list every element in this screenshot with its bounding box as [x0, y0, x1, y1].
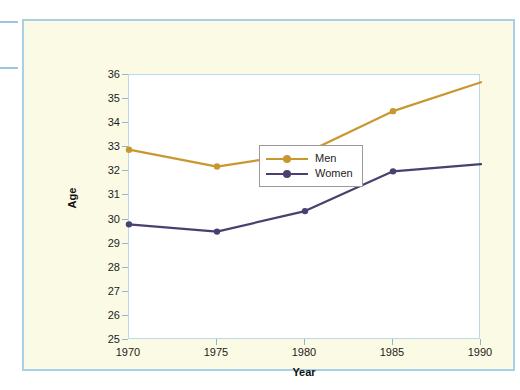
x-axis-tick-label: 1985 [372, 347, 412, 358]
legend-swatch-women [266, 168, 308, 180]
legend-entry-women: Women [266, 166, 353, 181]
x-axis-tick-label: 1980 [284, 347, 324, 358]
data-point-women-1985 [390, 168, 396, 174]
x-axis-tick-label: 1970 [108, 347, 148, 358]
x-axis-tick-mark [392, 339, 393, 345]
y-axis-tick-label: 30 [94, 213, 120, 224]
data-point-women-1975 [214, 228, 220, 234]
data-point-men-1985 [390, 108, 396, 114]
legend-label-men: Men [315, 153, 336, 164]
y-axis-tick-label: 28 [94, 261, 120, 272]
legend-marker-men [283, 155, 291, 163]
x-axis-tick-mark [216, 339, 217, 345]
line-series-layer [129, 75, 481, 340]
data-point-women-1970 [126, 221, 132, 227]
data-point-men-1975 [214, 163, 220, 169]
y-axis-tick-label: 35 [94, 93, 120, 104]
y-axis-tick-label: 31 [94, 189, 120, 200]
chart-legend: Men Women [259, 145, 363, 187]
legend-label-women: Women [315, 168, 353, 179]
data-point-men-1970 [126, 146, 132, 152]
x-axis-tick-marks [128, 339, 480, 345]
x-axis-tick-label: 1975 [196, 347, 236, 358]
scan-artifact-line-top [0, 21, 18, 23]
y-axis-tick-labels: 363534333231302928272625 [88, 74, 120, 339]
y-axis-title: Age [66, 188, 78, 209]
y-axis-tick-label: 32 [94, 165, 120, 176]
x-axis-tick-label: 1990 [460, 347, 500, 358]
x-axis-title: Year [128, 366, 480, 378]
legend-swatch-men [266, 153, 308, 165]
y-axis-tick-label: 26 [94, 309, 120, 320]
y-axis-tick-label: 36 [94, 69, 120, 80]
figure-frame: 363534333231302928272625 Men Women 19701… [22, 19, 515, 371]
y-axis-tick-label: 29 [94, 237, 120, 248]
y-axis-tick-label: 27 [94, 285, 120, 296]
scan-artifact-line-bottom [0, 67, 18, 69]
legend-entry-men: Men [266, 151, 353, 166]
y-axis-tick-label: 25 [94, 334, 120, 345]
x-axis-tick-mark [304, 339, 305, 345]
plot-area: Men Women [128, 74, 480, 339]
x-axis-tick-labels: 19701975198019851990 [128, 347, 480, 363]
data-point-women-1980 [302, 208, 308, 214]
y-axis-tick-label: 34 [94, 117, 120, 128]
y-axis-tick-label: 33 [94, 141, 120, 152]
legend-marker-women [283, 170, 291, 178]
x-axis-tick-mark [480, 339, 481, 345]
